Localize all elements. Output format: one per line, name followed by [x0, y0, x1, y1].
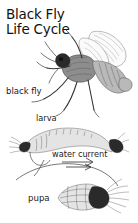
label-water-current: water current	[52, 150, 107, 159]
figure-title: Black Fly Life Cycle	[6, 7, 70, 36]
larva-illustration	[9, 128, 129, 165]
label-larva: larva	[36, 114, 57, 123]
figure-title-line-1: Black Fly	[6, 7, 70, 22]
substrate-rock-outline	[16, 160, 118, 186]
label-black-fly: black fly	[6, 87, 42, 96]
black-fly-life-cycle-figure: Black Fly Life Cycle black fly larva wat…	[0, 0, 138, 223]
pupa-illustration	[58, 179, 129, 213]
adult-black-fly-illustration	[32, 30, 132, 117]
figure-title-line-2: Life Cycle	[6, 22, 70, 37]
label-pupa: pupa	[28, 194, 50, 203]
